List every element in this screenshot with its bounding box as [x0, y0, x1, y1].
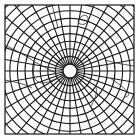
polar-graticule-map — [0, 0, 139, 138]
